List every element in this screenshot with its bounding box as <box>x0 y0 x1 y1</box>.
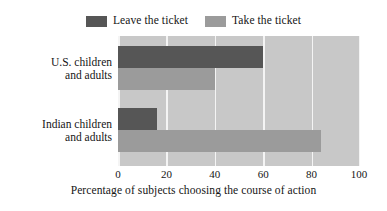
gridline-100 <box>359 36 361 166</box>
bar-india-take-the-ticket <box>118 130 321 152</box>
xtick-60: 60 <box>258 168 269 181</box>
x-axis-title: Percentage of subjects choosing the cour… <box>0 184 387 196</box>
bar-chart-figure: Leave the ticket Take the ticket U.S. ch… <box>0 0 387 211</box>
plot-area <box>118 36 360 166</box>
bar-india-leave-the-ticket <box>118 108 157 130</box>
legend-entry-leave-the-ticket: Leave the ticket <box>86 15 188 27</box>
ycat-label-india: Indian children and adults <box>8 118 112 144</box>
bar-us-take-the-ticket <box>118 68 215 90</box>
xtick-20: 20 <box>161 168 172 181</box>
legend-swatch-take-icon <box>205 16 226 27</box>
xtick-0: 0 <box>115 168 121 181</box>
ycat-label-us: U.S. children and adults <box>14 56 112 82</box>
xtick-80: 80 <box>306 168 317 181</box>
chart-legend: Leave the ticket Take the ticket <box>0 13 387 29</box>
legend-entry-take-the-ticket: Take the ticket <box>205 15 301 27</box>
legend-label-take: Take the ticket <box>232 15 301 27</box>
bar-us-leave-the-ticket <box>118 46 263 68</box>
legend-label-leave: Leave the ticket <box>113 15 188 27</box>
x-axis-ticks: 0 20 40 60 80 100 <box>118 168 360 182</box>
legend-swatch-leave-icon <box>86 16 107 27</box>
xtick-40: 40 <box>209 168 220 181</box>
xtick-100: 100 <box>351 168 368 181</box>
